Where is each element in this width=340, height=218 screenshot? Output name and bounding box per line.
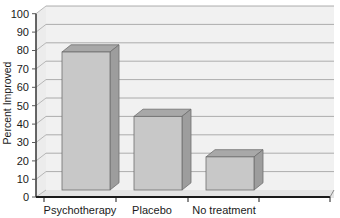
y-axis-title: Percent Improved bbox=[1, 61, 13, 144]
x-category-labels: Psychotherapy Placebo No treatment bbox=[44, 204, 256, 216]
y-tick-label-80: 80 bbox=[17, 44, 29, 56]
bar-top-face bbox=[62, 45, 119, 52]
y-tick-label-0: 0 bbox=[23, 191, 29, 203]
bar-front-face bbox=[62, 52, 110, 190]
y-tick-label-50: 50 bbox=[17, 100, 29, 112]
x-label-psychotherapy: Psychotherapy bbox=[44, 204, 117, 216]
bar-psychotherapy bbox=[62, 45, 119, 190]
y-tick-label-10: 10 bbox=[17, 173, 29, 185]
y-tick-label-40: 40 bbox=[17, 118, 29, 130]
bar-side-face bbox=[110, 45, 119, 190]
bar-top-face bbox=[134, 109, 191, 116]
y-tick-label-30: 30 bbox=[17, 136, 29, 148]
y-tick-label-90: 90 bbox=[17, 26, 29, 38]
y-tick-label-70: 70 bbox=[17, 63, 29, 75]
bar-top-face bbox=[206, 150, 263, 157]
y-tick-label-20: 20 bbox=[17, 155, 29, 167]
bar-placebo bbox=[134, 109, 191, 190]
y-tick-label-100: 100 bbox=[11, 8, 29, 20]
y-tick-label-60: 60 bbox=[17, 81, 29, 93]
bar-side-face bbox=[254, 150, 263, 190]
bar-side-face bbox=[182, 109, 191, 190]
bar-front-face bbox=[206, 157, 254, 190]
bar-front-face bbox=[134, 116, 182, 190]
chart-canvas: 100 90 80 70 60 50 40 30 20 10 0 Percent… bbox=[0, 0, 340, 218]
x-label-no-treatment: No treatment bbox=[192, 204, 256, 216]
bar-chart-figure: 100 90 80 70 60 50 40 30 20 10 0 Percent… bbox=[0, 0, 340, 218]
y-tick-labels: 100 90 80 70 60 50 40 30 20 10 0 bbox=[11, 8, 29, 203]
x-label-placebo: Placebo bbox=[132, 204, 172, 216]
bar-no-treatment bbox=[206, 150, 263, 190]
